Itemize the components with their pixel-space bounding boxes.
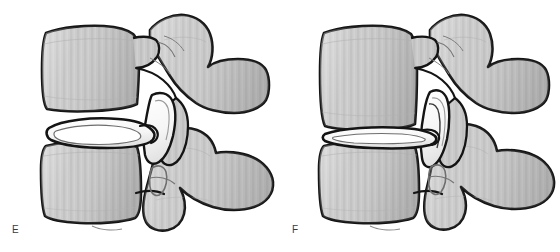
vertebral-segment-diagram-f (280, 0, 560, 252)
lower-vertebral-body-e (38, 135, 146, 230)
inferior-endplate-contour-f (370, 226, 400, 230)
panel-label-e: E (12, 224, 19, 236)
panel-f: F (280, 0, 560, 252)
upper-vertebral-body-f (318, 20, 423, 136)
panel-e: E (0, 0, 280, 252)
figure-root: E (0, 0, 560, 252)
intervertebral-disc-f (323, 127, 439, 148)
inferior-endplate-contour-e (92, 226, 122, 230)
intervertebral-disc-e (47, 118, 158, 148)
panel-label-f: F (292, 224, 298, 236)
vertebral-segment-diagram-e (0, 0, 280, 252)
upper-vertebral-body-e (40, 20, 145, 120)
